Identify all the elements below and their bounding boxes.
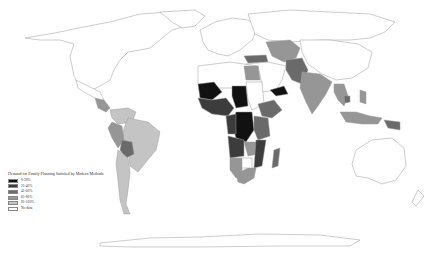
legend-label: 61-80% xyxy=(21,196,32,200)
region-australia xyxy=(352,138,406,184)
region-central-america xyxy=(95,98,110,112)
legend-label: 21-40% xyxy=(21,185,32,189)
region-botswana xyxy=(242,158,252,168)
region-new-zealand xyxy=(412,190,424,206)
map-legend: Demand for Family Planning Satisfied by … xyxy=(8,172,103,212)
world-map xyxy=(0,0,435,256)
legend-swatch xyxy=(8,190,18,194)
region-mozambique xyxy=(254,140,266,168)
region-india xyxy=(300,72,332,114)
region-west-africa xyxy=(198,98,234,116)
region-indonesia xyxy=(340,112,382,124)
region-chad xyxy=(232,86,248,108)
region-argentina-chile xyxy=(116,150,130,214)
legend-label: 0-20% xyxy=(21,179,31,183)
region-east-africa xyxy=(254,116,270,140)
legend-swatch xyxy=(8,201,18,205)
region-north-america xyxy=(25,12,195,90)
legend-swatch xyxy=(8,207,18,211)
legend-label: 41-60% xyxy=(21,190,32,194)
region-madagascar xyxy=(272,148,280,168)
region-angola xyxy=(228,136,244,158)
region-cambodia xyxy=(344,96,350,103)
region-png xyxy=(384,120,400,130)
region-philippines xyxy=(360,90,366,104)
legend-item: No data xyxy=(8,206,103,212)
region-turkey xyxy=(244,55,268,63)
region-europe xyxy=(200,18,258,56)
legend-label: 81-100% xyxy=(21,201,34,205)
region-egypt xyxy=(244,66,260,80)
legend-label: No data xyxy=(21,207,32,211)
legend-swatch xyxy=(8,196,18,200)
legend-swatch xyxy=(8,179,18,183)
region-gabon-congo xyxy=(226,114,236,134)
region-russia xyxy=(248,10,395,42)
region-antarctica xyxy=(100,234,360,247)
legend-title: Demand for Family Planning Satisfied by … xyxy=(8,172,103,176)
legend-swatch xyxy=(8,184,18,188)
